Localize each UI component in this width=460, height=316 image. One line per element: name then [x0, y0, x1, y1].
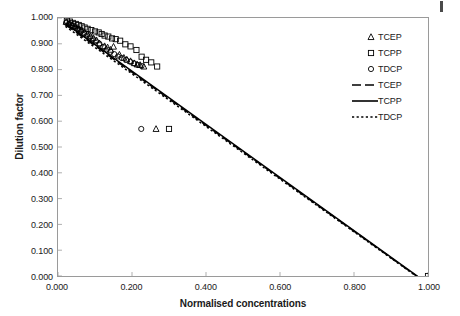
y-axis-tick-labels: 0.0000.1000.2000.3000.4000.5000.6000.700… — [0, 0, 53, 316]
legend-circle-icon — [352, 62, 378, 76]
x-tick-label: 0.800 — [327, 283, 383, 292]
legend-label: TDCP — [378, 65, 402, 74]
y-tick-label: 0.000 — [3, 273, 53, 282]
marker-square — [368, 50, 373, 55]
scatter-chart-figure: Dilution factor 0.0000.1000.2000.3000.40… — [0, 0, 460, 316]
marker-square — [166, 126, 171, 131]
x-tick-label: 0.600 — [252, 283, 308, 292]
legend-label: TDCP — [378, 113, 402, 122]
marker-square — [123, 42, 128, 47]
legend-square-icon — [352, 46, 378, 60]
marker-circle — [139, 126, 144, 131]
legend-item-tcep-marker[interactable]: TCEP — [352, 29, 424, 45]
legend-solid-line-icon — [352, 94, 378, 108]
marker-triangle — [111, 43, 117, 49]
legend-item-tcpp-marker[interactable]: TCPP — [352, 45, 424, 61]
y-tick-label: 1.000 — [3, 13, 53, 22]
marker-triangle — [368, 34, 374, 40]
marker-circle — [368, 66, 373, 71]
x-tick-label: 0.200 — [103, 283, 159, 292]
y-tick-label: 0.500 — [3, 143, 53, 152]
marker-square — [128, 44, 133, 49]
legend-dotted-line-icon — [352, 110, 378, 124]
legend-triangle-icon — [352, 30, 378, 44]
y-tick-label: 0.800 — [3, 65, 53, 74]
legend-dashed-line-icon — [352, 78, 378, 92]
marker-square — [155, 64, 160, 69]
y-tick-label: 0.100 — [3, 247, 53, 256]
chart-legend: TCEPTCPPTDCPTCEPTCPPTDCP — [352, 29, 424, 125]
marker-square — [89, 28, 94, 33]
marker-triangle — [153, 126, 159, 132]
legend-label: TCPP — [378, 49, 402, 58]
legend-label: TCPP — [378, 97, 402, 106]
x-tick-label: 0.000 — [29, 283, 85, 292]
legend-item-tdcp-line[interactable]: TDCP — [352, 109, 424, 125]
x-axis-title: Normalised concentrations — [57, 298, 429, 309]
legend-item-tcpp-line[interactable]: TCPP — [352, 93, 424, 109]
y-tick-label: 0.900 — [3, 39, 53, 48]
legend-item-tdcp-marker[interactable]: TDCP — [352, 61, 424, 77]
y-tick-label: 0.400 — [3, 169, 53, 178]
y-tick-label: 0.200 — [3, 221, 53, 230]
legend-label: TCEP — [378, 33, 402, 42]
legend-item-tcep-line[interactable]: TCEP — [352, 77, 424, 93]
x-axis-tick-labels: 0.0000.2000.4000.6000.8001.000 — [0, 283, 460, 297]
x-tick-label: 1.000 — [401, 283, 457, 292]
y-tick-label: 0.300 — [3, 195, 53, 204]
scan-artifact-mark — [440, 1, 443, 12]
y-tick-label: 0.700 — [3, 91, 53, 100]
marker-square — [134, 47, 139, 52]
legend-label: TCEP — [378, 81, 402, 90]
x-tick-label: 0.400 — [178, 283, 234, 292]
y-tick-label: 0.600 — [3, 117, 53, 126]
marker-square — [149, 60, 154, 65]
